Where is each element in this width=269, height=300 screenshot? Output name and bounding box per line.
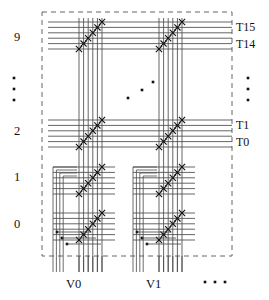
ellipsis-left-dot-1 — [13, 88, 16, 91]
terminal-label-t14: T14 — [236, 38, 255, 50]
figure-canvas: 9 2 1 0 T15 T14 T1 T0 V0 V1 — [0, 0, 269, 300]
ellipsis-right-dot-2 — [247, 99, 250, 102]
ellipsis-left-dot-0 — [13, 77, 16, 80]
terminal-label-t15: T15 — [236, 21, 255, 33]
crossbar-diagram — [0, 0, 269, 300]
column-label-v1: V1 — [146, 278, 161, 290]
ellipsis-middle-dot-2 — [152, 81, 155, 84]
row-label-9: 9 — [14, 31, 20, 43]
ellipsis-bottom-dot-1 — [214, 281, 217, 284]
ellipsis-middle-dot-1 — [141, 89, 144, 92]
column-label-v0: V0 — [66, 278, 81, 290]
ellipsis-bottom-dot-2 — [224, 281, 227, 284]
ellipsis-left-dot-2 — [13, 99, 16, 102]
terminal-label-t1: T1 — [236, 119, 249, 131]
row-label-2: 2 — [14, 125, 20, 137]
ellipsis-right-dot-0 — [247, 77, 250, 80]
row-label-0: 0 — [14, 218, 20, 230]
ellipsis-right-dot-1 — [247, 88, 250, 91]
row-label-1: 1 — [14, 171, 20, 183]
ellipsis-middle-dot-0 — [127, 97, 130, 100]
ellipsis-bottom-dot-0 — [204, 281, 207, 284]
terminal-label-t0: T0 — [236, 136, 249, 148]
